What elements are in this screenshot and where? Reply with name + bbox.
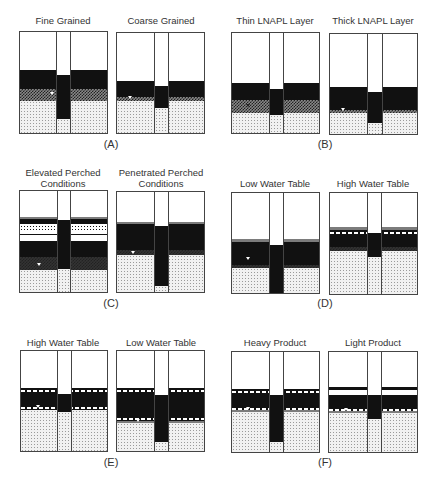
monitoring-well — [367, 193, 382, 294]
monitoring-well — [57, 351, 72, 451]
group-caption-d: (D) — [305, 297, 345, 309]
water-table-icon — [136, 419, 140, 422]
monitoring-well — [57, 191, 71, 292]
water-table-icon — [131, 251, 135, 254]
water-table-icon — [36, 405, 40, 408]
monitoring-well — [367, 352, 382, 452]
panel-title-f2: Light Product — [318, 337, 428, 348]
diagram-panel-e1 — [20, 350, 108, 452]
diagram-panel-e2 — [116, 350, 205, 452]
monitoring-well — [154, 351, 169, 451]
water-table-icon — [344, 408, 348, 411]
water-table-icon — [128, 96, 132, 99]
monitoring-well — [154, 33, 169, 133]
diagram-panel-a1 — [19, 31, 108, 134]
panel-title-d1: Low Water Table — [220, 178, 330, 189]
diagram-panel-d2 — [329, 192, 418, 295]
monitoring-well — [154, 192, 169, 292]
group-caption-b: (B) — [305, 138, 345, 150]
monitoring-well — [269, 352, 284, 452]
panel-title-d2: High Water Table — [318, 178, 428, 189]
monitoring-well — [367, 34, 383, 134]
group-caption-f: (F) — [305, 456, 345, 468]
diagram-panel-f1 — [231, 351, 320, 453]
diagram-panel-d1 — [231, 192, 320, 294]
panel-title-c1: Elevated Perched Conditions — [8, 167, 118, 189]
water-table-icon — [246, 407, 250, 410]
water-table-icon — [246, 104, 250, 107]
diagram-panel-b2 — [329, 33, 418, 135]
panel-title-e2: Low Water Table — [106, 337, 216, 348]
group-caption-a: (A) — [91, 138, 131, 150]
panel-title-c2: Penetrated Perched Conditions — [106, 167, 216, 189]
group-caption-c: (C) — [91, 297, 131, 309]
monitoring-well — [269, 193, 284, 293]
panel-title-a2: Coarse Grained — [106, 15, 216, 26]
group-caption-e: (E) — [91, 456, 131, 468]
water-table-icon — [50, 92, 54, 95]
diagram-panel-c2 — [116, 191, 205, 293]
water-table-icon — [37, 263, 41, 266]
diagram-panel-a2 — [116, 32, 205, 134]
diagram-panel-b1 — [231, 32, 320, 134]
panel-title-b1: Thin LNAPL Layer — [220, 15, 330, 26]
panel-title-f1: Heavy Product — [220, 337, 330, 348]
panel-title-b2: Thick LNAPL Layer — [318, 15, 428, 26]
panel-title-e1: High Water Table — [8, 337, 118, 348]
water-table-icon — [341, 108, 345, 111]
water-table-icon — [246, 257, 250, 260]
diagram-panel-f2 — [328, 351, 418, 453]
panel-title-a1: Fine Grained — [8, 15, 118, 26]
monitoring-well — [56, 32, 71, 133]
diagram-panel-c1 — [19, 190, 108, 293]
monitoring-well — [269, 33, 284, 133]
